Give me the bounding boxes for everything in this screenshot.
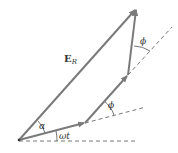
resultant-label: ER [64,53,78,66]
phi-1-label: ϕ [108,100,114,110]
phasor-2-arrow [85,76,127,123]
phasor-3-arrow [128,10,136,75]
alpha-label: α [39,121,45,131]
resultant-phasor-arrow [19,10,135,140]
resultant-label-subscript: R [71,58,78,66]
origin-point [18,139,21,142]
phasor1-extension-line [85,107,146,123]
phasor-diagram: ER α ωt ϕ ϕ [0,0,178,153]
phi-2-angle-arc [134,46,150,51]
phi-2-label: ϕ [140,36,146,46]
phasor-1-arrow [19,123,84,140]
omega-t-angle-arc [56,131,57,141]
omega-t-label: ωt [59,131,70,141]
